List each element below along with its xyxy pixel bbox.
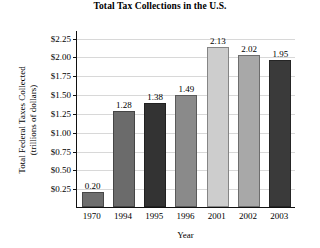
x-axis-tick-label: 2003: [270, 211, 288, 221]
bar: [144, 103, 166, 207]
y-axis-tick-label: $1.75: [51, 71, 71, 81]
x-axis-tick-label: 2001: [208, 211, 226, 221]
bar-value-label: 2.02: [241, 44, 257, 54]
y-axis-tick-label: $0.75: [51, 147, 71, 157]
x-axis-tick-label: 1994: [114, 211, 132, 221]
bar-slot: 0.20: [77, 31, 108, 207]
bar-value-label: 1.38: [147, 92, 163, 102]
bar-value-label: 1.49: [179, 84, 195, 94]
bar-value-label: 1.28: [116, 100, 132, 110]
bar: [82, 192, 104, 207]
x-axis-tick-label: 2002: [239, 211, 257, 221]
bar: [238, 55, 260, 207]
y-axis-tick-label: $2.00: [51, 52, 71, 62]
x-axis-tick-label: 1996: [177, 211, 195, 221]
y-axis-tick-label: $1.25: [51, 109, 71, 119]
bar-slot: 2.02: [233, 31, 264, 207]
bar-slot: 2.13: [202, 31, 233, 207]
bar-value-label: 1.95: [272, 49, 288, 59]
y-axis-tick-label: $2.25: [51, 34, 71, 44]
y-axis-tick-label: $1.00: [51, 128, 71, 138]
bar-slot: 1.38: [140, 31, 171, 207]
y-axis-title: Total Federal Taxes Collected (trillions…: [17, 40, 39, 200]
x-axis-tick-label: 1970: [83, 211, 101, 221]
y-axis-tick-label: $0.50: [51, 165, 71, 175]
x-axis-tick-label: 1995: [145, 211, 163, 221]
bar-slot: 1.28: [108, 31, 139, 207]
y-axis-title-line1: Total Federal Taxes Collected: [17, 66, 27, 173]
y-axis-tick-label: $1.50: [51, 90, 71, 100]
bar: [269, 60, 291, 207]
bar-slot: 1.95: [265, 31, 296, 207]
bar: [175, 95, 197, 207]
bar-value-label: 0.20: [85, 181, 101, 191]
bar-series: 0.201.281.381.492.132.021.95: [77, 31, 295, 207]
bar: [113, 111, 135, 207]
y-axis-tick-label: $0.25: [51, 184, 71, 194]
bar-slot: 1.49: [171, 31, 202, 207]
y-axis-title-line2: (trillions of dollars): [28, 40, 39, 200]
x-axis-title: Year: [76, 230, 295, 240]
bar-value-label: 2.13: [210, 36, 226, 46]
chart-screenshot: Total Tax Collections in the U.S. Total …: [0, 0, 320, 248]
bar: [207, 47, 229, 207]
plot-area: $0.25$0.50$0.75$1.00$1.25$1.50$1.75$2.00…: [76, 31, 295, 208]
chart-title: Total Tax Collections in the U.S.: [0, 1, 320, 11]
